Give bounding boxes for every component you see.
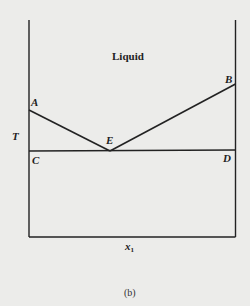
point-label-e: E (106, 135, 113, 146)
y-axis-label: T (12, 131, 19, 142)
point-label-c: C (32, 155, 39, 166)
phase-diagram (0, 0, 250, 306)
liquidus-line-eb (110, 84, 236, 151)
point-label-b: B (225, 74, 232, 85)
x-axis-label-subscript: 1 (131, 246, 135, 254)
point-label-d: D (223, 153, 231, 164)
point-label-a: A (31, 97, 38, 108)
region-label-liquid: Liquid (112, 51, 144, 62)
liquidus-line-ae (29, 110, 110, 151)
eutectic-line-cd (29, 150, 236, 151)
x-axis-label: x1 (125, 241, 134, 254)
figure-caption: (b) (124, 288, 136, 298)
